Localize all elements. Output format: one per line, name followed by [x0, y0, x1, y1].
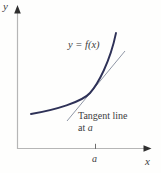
tangent-annotation-at: at — [78, 122, 88, 133]
curve-label: y = f(x) — [67, 39, 100, 51]
a-tick-label: a — [92, 153, 97, 164]
tangent-line-figure: y x y = f(x) Tangent line at a a — [0, 0, 161, 173]
figure-canvas: y x y = f(x) Tangent line at a a — [0, 0, 161, 173]
y-axis-label: y — [2, 0, 8, 12]
x-axis-label: x — [144, 155, 150, 167]
y-axis-arrowhead-icon — [14, 5, 21, 14]
tangent-annotation-point: a — [88, 122, 93, 133]
x-axis-arrowhead-icon — [144, 145, 152, 152]
tangent-annotation-line1: Tangent line — [78, 110, 128, 121]
tangent-annotation-line2: at a — [78, 122, 93, 133]
